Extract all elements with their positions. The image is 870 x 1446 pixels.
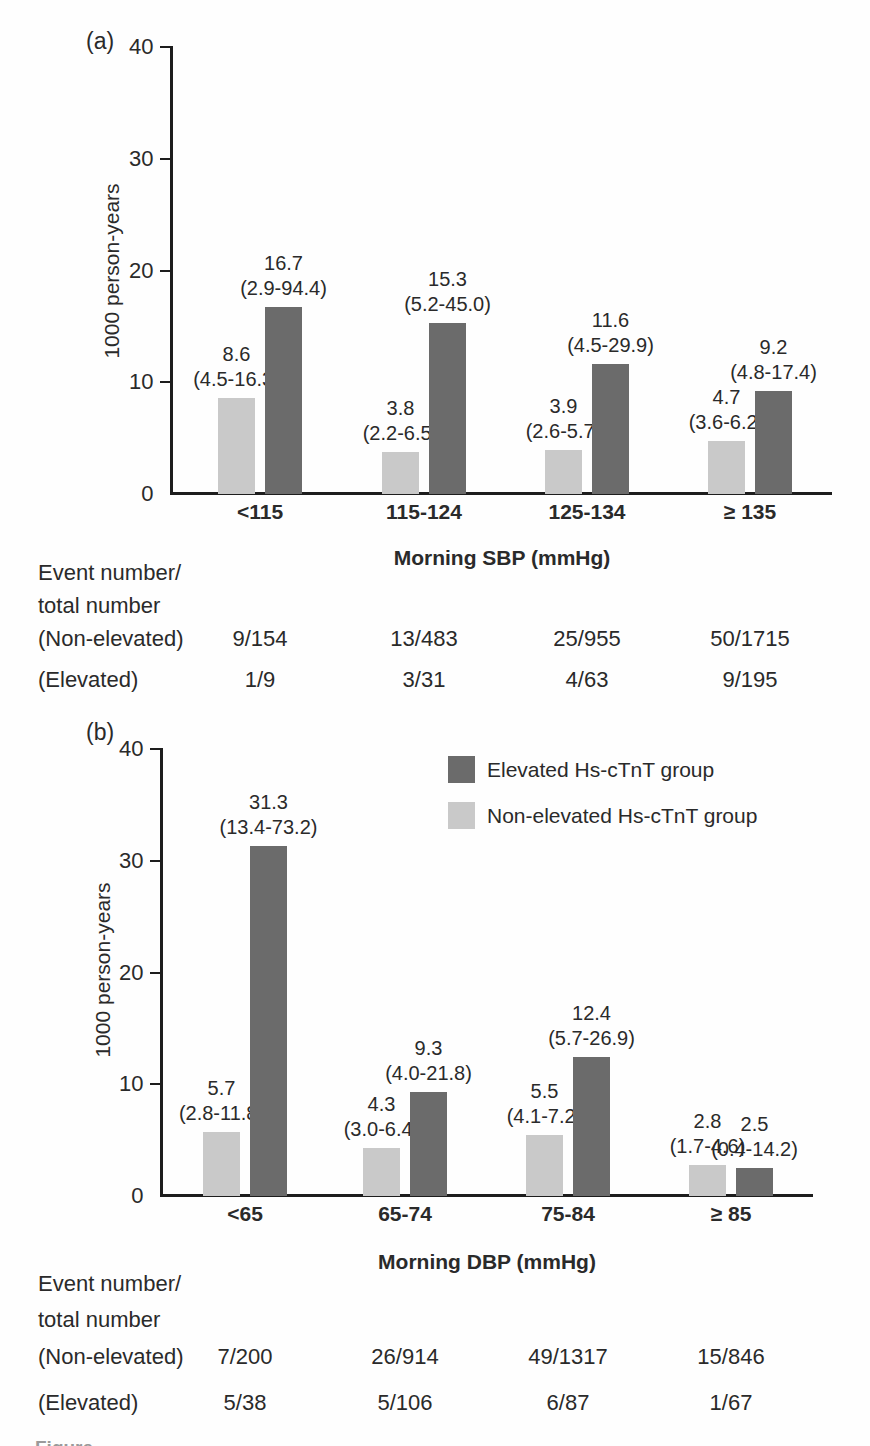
panel-a-y-tick-mark <box>160 46 170 48</box>
panel-b-y-tick-mark <box>150 972 160 974</box>
panel-a-bar-value-label: 9.2(4.8-17.4) <box>699 335 849 385</box>
cropped-caption-fragment: Figure <box>35 1437 845 1446</box>
panel-a-y-axis-line <box>170 46 173 495</box>
legend-swatch-elevated <box>448 756 475 783</box>
panel-b-table-value: 7/200 <box>170 1344 320 1370</box>
panel-a-y-tick-label: 10 <box>106 368 154 396</box>
panel-b-table-value: 5/38 <box>170 1390 320 1416</box>
panel-b-bar-non-elevated <box>526 1135 563 1196</box>
panel-a-y-tick-mark <box>160 158 170 160</box>
panel-b-x-tick-label: ≥ 85 <box>656 1202 806 1226</box>
panel-b-bar-non-elevated <box>689 1165 726 1196</box>
panel-b-table-value: 1/67 <box>656 1390 806 1416</box>
panel-a-y-tick-label: 0 <box>106 480 154 508</box>
panel-b-y-tick-mark <box>150 748 160 750</box>
panel-a-table-value: 50/1715 <box>675 626 825 652</box>
panel-b-table-value: 15/846 <box>656 1344 806 1370</box>
panel-a-x-tick-label: 115-124 <box>349 500 499 524</box>
panel-b-bar-non-elevated <box>363 1148 400 1196</box>
panel-b-bar-value-label: 12.4(5.7-26.9) <box>517 1001 667 1051</box>
panel-a-x-tick-label: ≥ 135 <box>675 500 825 524</box>
panel-a-bar-elevated <box>265 307 302 494</box>
panel-a-table-value: 9/195 <box>675 667 825 693</box>
panel-a-row-label-non-elevated: (Non-elevated) <box>38 626 184 652</box>
panel-a-y-tick-mark <box>160 270 170 272</box>
panel-b-row-label-non-elevated: (Non-elevated) <box>38 1344 184 1370</box>
panel-b-x-tick-label: <65 <box>170 1202 320 1226</box>
panel-b-table-value: 5/106 <box>330 1390 480 1416</box>
panel-a-x-tick-label: <115 <box>185 500 335 524</box>
panel-a-table-value: 4/63 <box>512 667 662 693</box>
panel-b-bar-value-label: 31.3(13.4-73.2) <box>194 790 344 840</box>
panel-a-bar-elevated <box>755 391 792 494</box>
figure-page: (a) 1000 person-years Morning SBP (mmHg)… <box>0 0 870 1446</box>
panel-b-y-tick-label: 40 <box>96 735 144 763</box>
panel-b-row-label-elevated: (Elevated) <box>38 1390 138 1416</box>
panel-a-table-header: Event number/ total number <box>38 556 181 622</box>
panel-b-y-tick-mark <box>150 860 160 862</box>
panel-b-table-value: 6/87 <box>493 1390 643 1416</box>
panel-a-bar-value-label: 11.6(4.5-29.9) <box>536 308 686 358</box>
legend-swatch-non-elevated <box>448 802 475 829</box>
panel-a-bar-value-label: 16.7(2.9-94.4) <box>209 251 359 301</box>
panel-b-bar-elevated <box>250 846 287 1196</box>
panel-a-table-value: 13/483 <box>349 626 499 652</box>
panel-b-x-tick-label: 65-74 <box>330 1202 480 1226</box>
panel-a-y-tick-label: 40 <box>106 33 154 61</box>
panel-a-x-axis-title: Morning SBP (mmHg) <box>394 546 611 570</box>
panel-b-bar-elevated <box>736 1168 773 1196</box>
panel-b-y-tick-label: 20 <box>96 959 144 987</box>
panel-a-x-tick-label: 125-134 <box>512 500 662 524</box>
panel-b-y-tick-label: 0 <box>96 1182 144 1210</box>
panel-a-bar-non-elevated <box>545 450 582 494</box>
panel-a-bar-elevated <box>429 323 466 494</box>
panel-b-x-axis-title: Morning DBP (mmHg) <box>378 1250 596 1274</box>
panel-b-table-value: 26/914 <box>330 1344 480 1370</box>
panel-a-table-value: 1/9 <box>185 667 335 693</box>
legend-label-elevated: Elevated Hs-cTnT group <box>487 758 714 782</box>
panel-b-bar-elevated <box>410 1092 447 1196</box>
panel-b-y-axis-line <box>160 748 163 1197</box>
panel-a-bar-value-label: 15.3(5.2-45.0) <box>373 267 523 317</box>
panel-b-x-tick-label: 75-84 <box>493 1202 643 1226</box>
panel-a-bar-non-elevated <box>218 398 255 494</box>
panel-b-y-tick-label: 30 <box>96 847 144 875</box>
panel-a-table-value: 9/154 <box>185 626 335 652</box>
legend-label-non-elevated: Non-elevated Hs-cTnT group <box>487 804 757 828</box>
panel-b-y-tick-label: 10 <box>96 1070 144 1098</box>
panel-a-y-tick-label: 20 <box>106 257 154 285</box>
panel-a-bar-elevated <box>592 364 629 494</box>
panel-a-table-value: 25/955 <box>512 626 662 652</box>
panel-a-bar-non-elevated <box>708 441 745 494</box>
panel-b-bar-value-label: 2.5(0.4-14.2) <box>680 1112 830 1162</box>
panel-b-table-value: 49/1317 <box>493 1344 643 1370</box>
panel-b-table-header: Event number/ total number <box>38 1266 181 1338</box>
panel-a-bar-non-elevated <box>382 452 419 494</box>
panel-b-bar-non-elevated <box>203 1132 240 1196</box>
panel-a-row-label-elevated: (Elevated) <box>38 667 138 693</box>
panel-a-table-value: 3/31 <box>349 667 499 693</box>
panel-b-bar-elevated <box>573 1057 610 1196</box>
panel-a-y-tick-label: 30 <box>106 145 154 173</box>
